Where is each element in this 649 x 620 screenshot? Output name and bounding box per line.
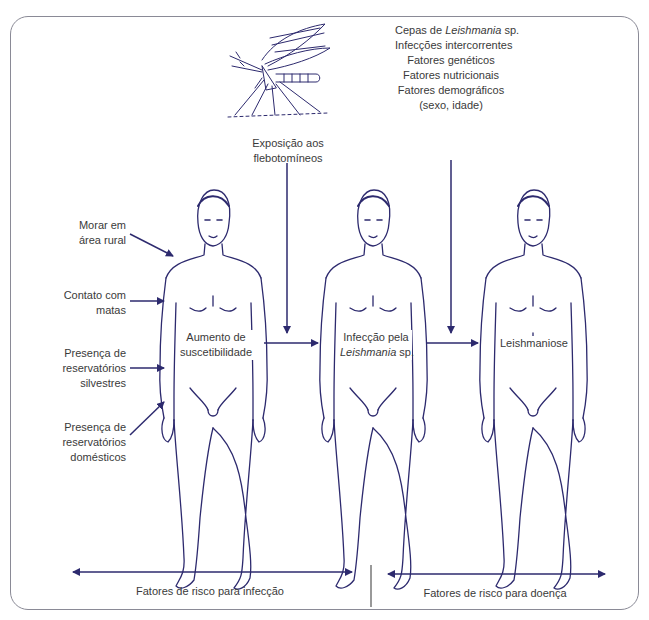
person-figure-3 (480, 190, 587, 589)
exposure-label: Exposição aos flebotomíneos (250, 136, 326, 166)
risk-factor-rural: Morar em área rural (40, 218, 126, 248)
stage-susceptibility: Aumento de suscetibilidade (178, 330, 254, 360)
stage-leishmaniasis: Leishmaniose (500, 336, 566, 351)
risk-factor-domestic-reservoirs: Presença de reservatórios domésticos (40, 420, 126, 465)
infection-risk-label: Fatores de risco para infecção (120, 584, 300, 599)
disease-factors-list: Cepas de Leishmania sp. Infecções interc… (395, 23, 507, 113)
risk-factor-forest: Contato com matas (40, 288, 126, 318)
risk-factor-wild-reservoirs: Presença de reservatórios silvestres (40, 346, 126, 391)
disease-risk-label: Fatores de risco para doença (400, 586, 590, 601)
person-figure-2 (320, 190, 427, 589)
sandfly-icon (228, 24, 330, 117)
factor-strain: Cepas de Leishmania sp. (395, 23, 507, 38)
stage-infection: Infecção pela Leishmania sp. (340, 330, 412, 360)
person-figure-1 (160, 190, 267, 589)
